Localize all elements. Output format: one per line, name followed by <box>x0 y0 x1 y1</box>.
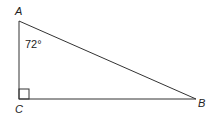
vertex-label-b: B <box>198 97 205 109</box>
triangle-abc <box>19 21 196 99</box>
vertex-label-a: A <box>14 5 22 17</box>
vertex-label-c: C <box>15 103 23 115</box>
angle-a-label: 72° <box>25 38 42 50</box>
right-angle-marker <box>19 89 29 99</box>
triangle-diagram: A C B 72° <box>0 0 216 118</box>
